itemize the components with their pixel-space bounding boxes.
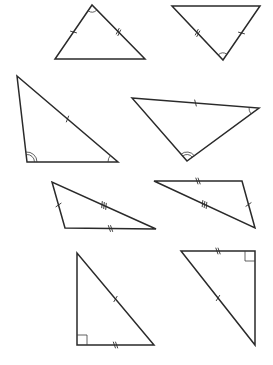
right-angle-icon	[77, 335, 87, 345]
tick-mark-icon	[202, 200, 203, 207]
triangle-outline	[172, 6, 260, 60]
triangle-t3	[17, 76, 118, 162]
triangle-t5	[52, 182, 156, 232]
angle-arc-icon	[218, 53, 227, 55]
tick-mark-icon	[106, 203, 107, 210]
triangle-t4	[132, 98, 259, 161]
triangle-outline	[55, 5, 145, 59]
triangle-t1	[55, 5, 145, 59]
triangle-t8	[181, 248, 255, 345]
tick-mark-icon	[104, 202, 105, 209]
triangle-t6	[154, 178, 255, 228]
tick-mark-icon	[204, 201, 205, 208]
angle-arc-icon	[88, 10, 97, 12]
angle-arc-icon	[108, 156, 110, 162]
angle-arc-icon	[181, 152, 194, 156]
triangle-diagram	[0, 0, 273, 365]
diagram-svg	[0, 0, 273, 365]
angle-arc-icon	[249, 107, 251, 114]
triangle-outline	[132, 98, 259, 161]
triangle-t2	[172, 6, 260, 60]
tick-mark-icon	[102, 201, 103, 208]
right-angle-icon	[245, 251, 255, 261]
tick-mark-icon	[206, 202, 207, 209]
triangle-t7	[77, 253, 154, 348]
